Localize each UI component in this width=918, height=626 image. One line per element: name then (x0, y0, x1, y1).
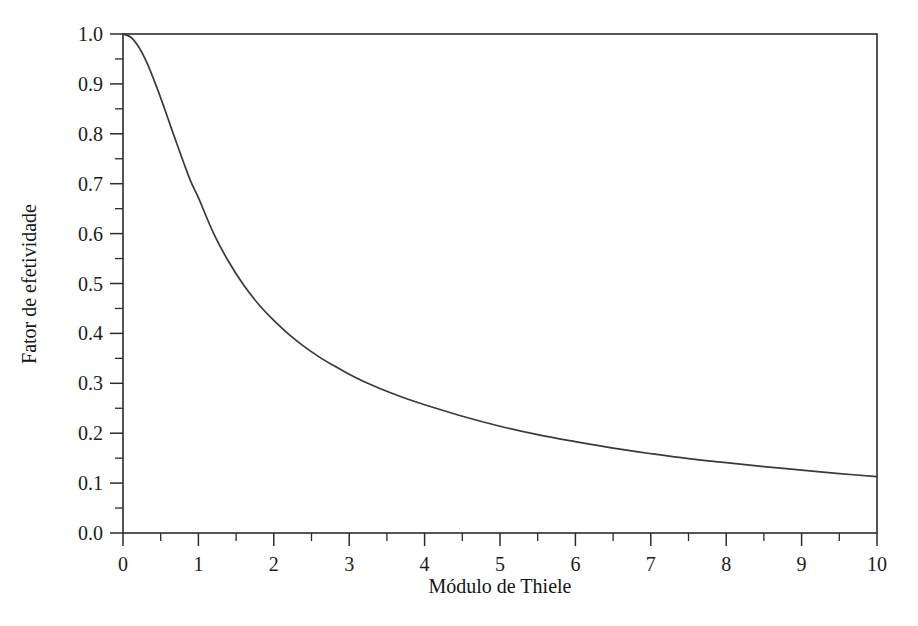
x-tick-label: 9 (797, 553, 807, 575)
y-tick-label: 0.7 (78, 173, 103, 195)
y-tick-label: 0.9 (78, 73, 103, 95)
x-tick-label: 3 (344, 553, 354, 575)
x-tick-label: 1 (193, 553, 203, 575)
x-tick-label: 10 (867, 553, 887, 575)
y-tick-label: 0.2 (78, 422, 103, 444)
data-series-curve (123, 34, 877, 477)
y-tick-label: 0.4 (78, 322, 103, 344)
y-tick-label: 0.3 (78, 372, 103, 394)
y-tick-label: 0.0 (78, 522, 103, 544)
y-tick-label: 0.1 (78, 472, 103, 494)
x-tick-label: 8 (721, 553, 731, 575)
y-tick-label: 1.0 (78, 23, 103, 45)
y-tick-label: 0.6 (78, 223, 103, 245)
x-tick-label: 7 (646, 553, 656, 575)
caption-strip (0, 612, 918, 626)
y-axis-title: Fator de efetividade (18, 204, 40, 364)
x-tick-label: 0 (118, 553, 128, 575)
y-tick-label: 0.8 (78, 123, 103, 145)
x-axis-title: Módulo de Thiele (429, 575, 572, 597)
x-tick-label: 5 (495, 553, 505, 575)
x-tick-label: 2 (269, 553, 279, 575)
effectiveness-factor-chart: 0.00.10.20.30.40.50.60.70.80.91.0 012345… (0, 0, 918, 626)
x-axis-tick-labels: 012345678910 (118, 553, 887, 575)
y-axis-tick-labels: 0.00.10.20.30.40.50.60.70.80.91.0 (78, 23, 103, 544)
figure-container: 0.00.10.20.30.40.50.60.70.80.91.0 012345… (0, 0, 918, 626)
y-tick-label: 0.5 (78, 273, 103, 295)
x-tick-label: 6 (570, 553, 580, 575)
plot-frame (123, 34, 877, 533)
x-tick-label: 4 (420, 553, 430, 575)
